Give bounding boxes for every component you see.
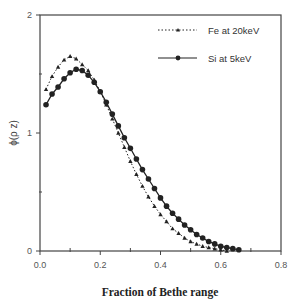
legend-label: Fe at 20keV	[208, 25, 260, 36]
circle-marker	[236, 247, 242, 253]
triangle-marker	[80, 62, 84, 66]
circle-marker	[152, 186, 158, 192]
triangle-marker	[86, 68, 90, 72]
triangle-marker	[122, 145, 126, 149]
circle-marker	[140, 167, 146, 173]
triangle-marker	[56, 65, 60, 69]
x-axis-title: Fraction of Bethe range	[102, 286, 219, 299]
circle-marker	[97, 89, 103, 95]
triangle-marker	[140, 184, 144, 188]
triangle-marker	[128, 159, 132, 163]
x-tick-label: 0.2	[94, 260, 107, 270]
circle-marker	[200, 235, 206, 241]
legend-circle-marker	[176, 56, 181, 61]
x-tick-label: 0.0	[34, 260, 47, 270]
circle-marker	[212, 241, 218, 247]
triangle-marker	[134, 172, 138, 176]
series-layer	[43, 54, 241, 253]
series-si-at-5kev	[43, 66, 241, 252]
circle-marker	[188, 227, 194, 233]
circle-marker	[67, 70, 73, 76]
circle-marker	[218, 243, 224, 249]
series-line	[46, 69, 239, 250]
triangle-marker	[182, 236, 186, 240]
y-axis-title: ϕ(ρ z)	[8, 120, 19, 146]
circle-marker	[146, 176, 152, 182]
triangle-marker	[146, 195, 150, 199]
triangle-marker	[194, 242, 198, 246]
circle-marker	[122, 135, 128, 141]
y-tick-label: 2	[27, 10, 32, 20]
triangle-marker	[207, 245, 211, 249]
circle-marker	[73, 66, 79, 72]
x-tick-label: 0.6	[214, 260, 227, 270]
circle-marker	[43, 102, 49, 108]
y-tick-label: 0	[27, 246, 32, 256]
x-tick-label: 0.8	[275, 260, 288, 270]
triangle-marker	[50, 74, 54, 78]
circle-marker	[110, 111, 116, 117]
circle-marker	[164, 203, 170, 209]
triangle-marker	[44, 87, 48, 91]
series-line	[46, 56, 227, 251]
circle-marker	[85, 72, 91, 78]
circle-marker	[116, 123, 122, 129]
triangle-marker	[176, 231, 180, 235]
legend-label: Si at 5keV	[208, 53, 252, 64]
triangle-marker	[116, 131, 120, 135]
series-fe-at-20kev	[44, 54, 229, 253]
circle-marker	[55, 84, 61, 90]
circle-marker	[182, 222, 188, 228]
circle-marker	[170, 210, 176, 216]
triangle-marker	[200, 244, 204, 248]
legend: Fe at 20keVSi at 5keV	[158, 25, 260, 64]
triangle-marker	[62, 58, 66, 62]
circle-marker	[224, 245, 230, 251]
circle-marker	[49, 91, 55, 97]
y-tick-label: 1	[27, 128, 32, 138]
circle-marker	[61, 76, 67, 82]
circle-marker	[176, 216, 182, 222]
chart: 0.00.20.40.60.8 012 Fe at 20keVSi at 5ke…	[0, 0, 301, 300]
circle-marker	[79, 68, 85, 74]
circle-marker	[103, 100, 109, 106]
circle-marker	[194, 232, 200, 238]
circle-marker	[134, 156, 140, 162]
circle-marker	[230, 246, 236, 252]
circle-marker	[158, 195, 164, 201]
circle-marker	[128, 146, 134, 152]
triangle-marker	[68, 54, 72, 58]
circle-marker	[206, 239, 212, 245]
triangle-marker	[188, 239, 192, 243]
x-tick-label: 0.4	[154, 260, 167, 270]
circle-marker	[91, 79, 97, 85]
triangle-marker	[164, 219, 168, 223]
